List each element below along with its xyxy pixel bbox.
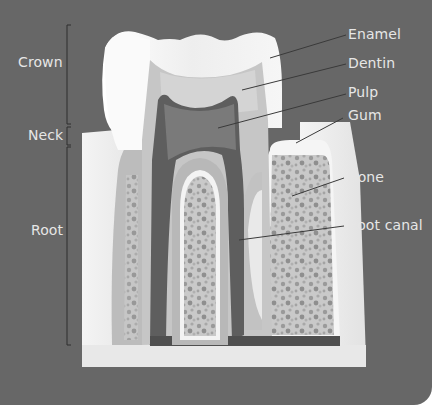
- inter-root-bone: [172, 158, 262, 345]
- label-crown: Crown: [18, 54, 63, 70]
- enamel-leader: [270, 35, 346, 58]
- label-bone: Bone: [348, 169, 384, 185]
- crown-bracket: [67, 25, 71, 124]
- label-gum: Gum: [348, 107, 382, 123]
- label-pulp: Pulp: [348, 84, 378, 100]
- label-root-canal: Root canal: [348, 217, 423, 233]
- neck-bracket: [67, 127, 71, 145]
- label-enamel: Enamel: [348, 26, 401, 42]
- label-dentin: Dentin: [348, 55, 395, 71]
- root-bracket: [67, 147, 71, 345]
- diagram-panel: Crown Neck Root Enamel Dentin Pulp Gum B…: [0, 0, 432, 405]
- label-root: Root: [31, 222, 63, 238]
- label-neck: Neck: [28, 127, 63, 143]
- region-brackets: [67, 25, 71, 345]
